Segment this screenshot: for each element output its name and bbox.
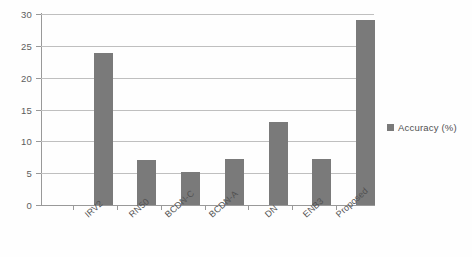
plot-area: [41, 14, 374, 205]
x-axis-tick-mark: [205, 205, 206, 210]
bar-proposed: [356, 20, 375, 205]
gridline: [41, 141, 374, 142]
chart-legend: Accuracy (%): [387, 122, 457, 133]
x-axis-tick-mark: [117, 205, 118, 210]
bar-chart-figure: 30 25 20 15 10 5 0 IRV2 RN50 BCDN-C BCDN: [0, 0, 472, 257]
x-axis-tick-mark: [161, 205, 162, 210]
y-axis-tick-label: 15: [6, 106, 32, 116]
legend-label-accuracy: Accuracy (%): [398, 122, 457, 133]
gridline: [41, 78, 374, 79]
y-axis-tick-label: 10: [6, 137, 32, 147]
x-axis-tick-mark: [73, 205, 74, 210]
bar-irv2: [94, 53, 113, 205]
y-axis-tick-label: 0: [6, 201, 32, 211]
legend-swatch-icon: [387, 124, 394, 131]
gridline: [41, 14, 374, 15]
y-axis-tick-label: 25: [6, 42, 32, 52]
x-axis-tick-mark: [292, 205, 293, 210]
y-axis-tick-label: 20: [6, 74, 32, 84]
x-axis-tick-mark: [248, 205, 249, 210]
y-axis-tick-label: 5: [6, 169, 32, 179]
bar-dn: [269, 122, 288, 205]
gridline: [41, 110, 374, 111]
gridline: [41, 46, 374, 47]
y-axis-tick-label: 30: [6, 10, 32, 20]
